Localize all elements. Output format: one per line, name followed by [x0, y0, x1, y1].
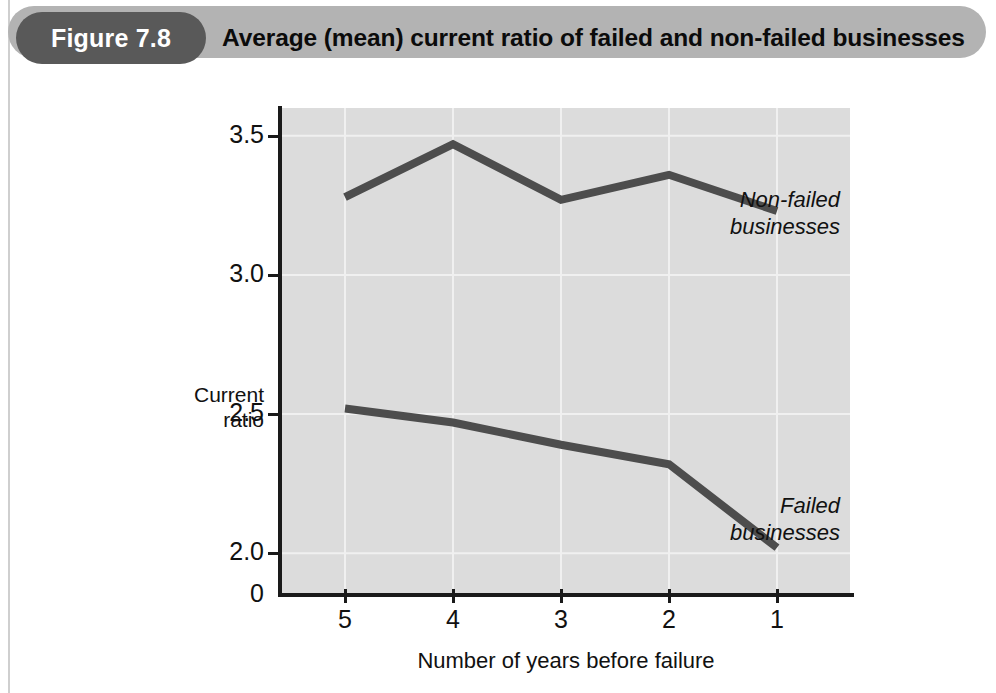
figure-page: Figure 7.8 Average (mean) current ratio … [0, 0, 996, 693]
figure-number-badge: Figure 7.8 [16, 12, 206, 64]
x-axis-tick-mark [560, 589, 563, 603]
series-label-non-failed: Non-failed businesses [560, 186, 840, 240]
y-axis-tick: 3.5 [180, 120, 264, 150]
y-axis-tick: 2.0 [180, 537, 264, 567]
y-axis-tick-mark [268, 552, 280, 555]
series-label-failed: Failed businesses [560, 492, 840, 546]
x-axis-tick-mark [776, 589, 779, 603]
y-axis-tick-label: 0 [190, 579, 264, 608]
line-chart: 3.53.02.52.00 54321 Current ratio Number… [0, 60, 996, 693]
y-axis-tick-mark [268, 135, 280, 138]
y-axis-line [278, 106, 282, 597]
figure-number-label: Figure 7.8 [51, 24, 171, 53]
y-axis-tick-mark [268, 274, 280, 277]
x-axis-tick-label: 4 [423, 605, 483, 634]
y-axis-title-line-2: ratio [128, 407, 264, 432]
y-axis-tick-label: 3.5 [190, 120, 264, 149]
y-axis-tick-label: 3.0 [190, 259, 264, 288]
series-label-failed-line-2: businesses [560, 519, 840, 546]
series-label-non-failed-line-1: Non-failed [560, 186, 840, 213]
y-axis-tick-mark [268, 413, 280, 416]
x-axis-tick-label: 5 [315, 605, 375, 634]
x-axis-tick-mark [668, 589, 671, 603]
x-axis-tick-mark [344, 589, 347, 603]
x-axis-title: Number of years before failure [282, 648, 850, 674]
x-axis-line [278, 593, 854, 597]
figure-banner: Figure 7.8 Average (mean) current ratio … [8, 6, 986, 58]
series-label-non-failed-line-2: businesses [560, 213, 840, 240]
x-axis-tick-mark [452, 589, 455, 603]
y-axis-tick: 3.0 [180, 259, 264, 289]
y-axis-tick: 0 [180, 579, 264, 609]
x-axis-tick-label: 2 [639, 605, 699, 634]
x-axis-tick-label: 3 [531, 605, 591, 634]
series-label-failed-line-1: Failed [560, 492, 840, 519]
y-axis-tick-label: 2.0 [190, 537, 264, 566]
x-axis-tick-label: 1 [747, 605, 807, 634]
figure-title: Average (mean) current ratio of failed a… [222, 12, 965, 64]
y-axis-title: Current ratio [128, 382, 264, 432]
y-axis-title-line-1: Current [128, 382, 264, 407]
